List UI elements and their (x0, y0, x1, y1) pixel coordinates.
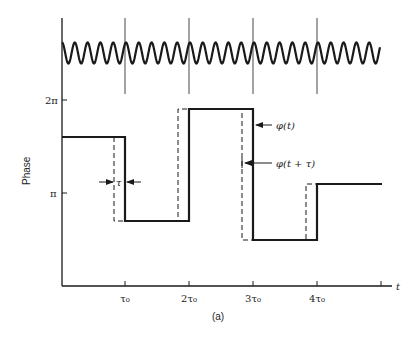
figure-caption: (a) (212, 311, 224, 322)
phi-t-label: φ(t) (276, 120, 295, 131)
x-axis-label: t (396, 281, 401, 292)
phi-t-tau-label: φ(t + τ) (276, 158, 315, 169)
phase-diagram: τ φ(t) φ(t + τ) 2π π Phase τ₀ 2τ₀ 3τ₀ 4τ… (0, 0, 419, 337)
y-tick-2pi: 2π (45, 95, 58, 106)
x-tick-4tau0: 4τ₀ (309, 293, 325, 304)
carrier-waveform (62, 43, 380, 64)
tau-label: τ (116, 177, 122, 188)
y-tick-pi: π (50, 188, 57, 199)
x-ticks (125, 281, 381, 286)
y-ticks (62, 100, 67, 193)
x-tick-2tau0: 2τ₀ (181, 293, 197, 304)
x-tick-3tau0: 3τ₀ (245, 293, 261, 304)
y-axis-label: Phase (21, 156, 32, 185)
x-tick-tau0: τ₀ (120, 293, 130, 304)
phase-curve (62, 109, 382, 240)
